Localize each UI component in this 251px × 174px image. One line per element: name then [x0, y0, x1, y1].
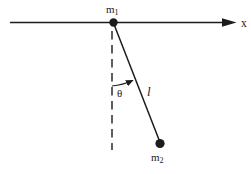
pendulum-rod — [114, 23, 160, 141]
mass2-dot — [155, 139, 164, 148]
mass1-dot — [109, 18, 117, 26]
angle-arc-arrow — [112, 81, 133, 87]
pendulum-diagram-canvas: x m1 m2 θ l — [0, 0, 251, 174]
x-axis-label: x — [241, 17, 247, 29]
mass2-label: m2 — [151, 151, 164, 165]
x-axis-arrowhead-icon — [222, 18, 237, 26]
angle-theta-label: θ — [117, 87, 122, 99]
rod-length-label: l — [147, 84, 151, 99]
mass1-label: m1 — [106, 3, 119, 17]
pendulum-diagram: x m1 m2 θ l — [0, 0, 251, 174]
